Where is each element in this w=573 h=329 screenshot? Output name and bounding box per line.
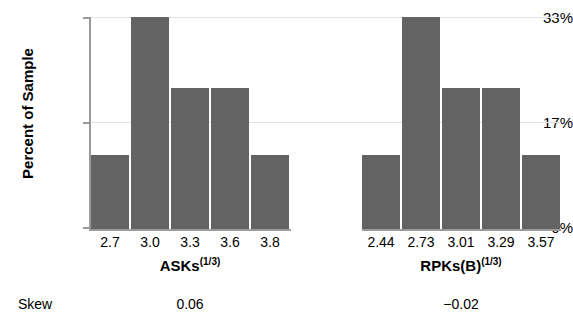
y-tick-mark-17: [83, 122, 90, 124]
plot-area-asks: [91, 17, 289, 229]
x-tick-label: 3.29: [482, 234, 520, 250]
y-tick-mark-33: [83, 17, 90, 19]
x-tick-label: 2.73: [402, 234, 440, 250]
skew-value-asks: 0.06: [130, 296, 250, 312]
x-tick-label: 3.57: [522, 234, 560, 250]
x-tick-label: 3.0: [131, 234, 169, 250]
x-axis-title-rpks: RPKs(B)(1/3): [362, 256, 560, 274]
bar: [482, 88, 520, 229]
x-tick-label: 3.6: [211, 234, 249, 250]
bar: [251, 155, 289, 229]
x-axis-title-asks: ASKs(1/3): [91, 256, 289, 274]
x-axis-title-rpks-exponent: (1/3): [481, 256, 502, 267]
figure: Percent of Sample 33% 17% 0% 2.7 3.0 3.3…: [0, 0, 573, 329]
plot-area-rpks: [362, 17, 560, 229]
bar: [362, 155, 400, 229]
skew-value-rpks: −0.02: [401, 296, 521, 312]
x-axis-line-rpks: [362, 229, 561, 231]
panel-rpks: [362, 17, 560, 229]
x-axis-title-rpks-text: RPKs(B): [420, 257, 481, 274]
skew-row-label: Skew: [18, 296, 52, 312]
x-axis-title-asks-exponent: (1/3): [200, 256, 221, 267]
bar: [522, 155, 560, 229]
x-axis-title-asks-text: ASKs: [160, 257, 200, 274]
x-axis-line-asks: [89, 229, 291, 231]
x-tick-label: 3.01: [442, 234, 480, 250]
bar: [402, 17, 440, 229]
bar: [442, 88, 480, 229]
bar: [91, 155, 129, 229]
bar: [211, 88, 249, 229]
y-axis-title: Percent of Sample: [19, 19, 36, 209]
bar: [131, 17, 169, 229]
x-tick-label: 3.8: [251, 234, 289, 250]
x-tick-label: 2.7: [91, 234, 129, 250]
panel-asks: [91, 17, 289, 229]
bar: [171, 88, 209, 229]
x-tick-label: 3.3: [171, 234, 209, 250]
x-tick-label: 2.44: [362, 234, 400, 250]
